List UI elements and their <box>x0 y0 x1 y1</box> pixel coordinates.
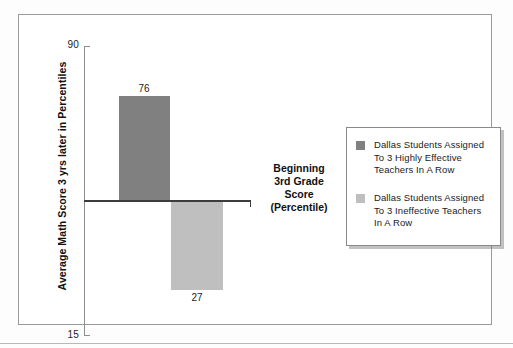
legend-swatch-effective-icon <box>356 141 365 150</box>
legend-label-line-1: Dallas Students Assigned <box>374 139 484 150</box>
baseline-end-tick <box>250 200 251 207</box>
center-annotation-line-2: 3rd Grade <box>255 175 343 188</box>
legend-label-ineffective: Dallas Students Assigned To 3 Ineffectiv… <box>374 192 484 230</box>
bar-value-label-negative: 27 <box>171 292 223 303</box>
bar-ineffective <box>171 202 223 290</box>
legend-item-ineffective: Dallas Students Assigned To 3 Ineffectiv… <box>356 192 498 230</box>
chart-frame: 90 15 Average Math Score 3 yrs later in … <box>18 14 492 325</box>
center-annotation-line-1: Beginning <box>255 162 343 175</box>
legend-label-line-2: To 3 Highly Effective <box>374 152 462 163</box>
center-annotation-line-3: Score <box>255 188 343 201</box>
page-background: 90 15 Average Math Score 3 yrs later in … <box>0 0 513 348</box>
center-annotation: Beginning 3rd Grade Score (Percentile) <box>255 162 343 214</box>
y-axis-tick-bottom <box>84 335 90 336</box>
bar-value-label-positive: 76 <box>118 83 170 94</box>
zero-baseline <box>84 200 251 202</box>
legend-label-line-3: Teachers In A Row <box>374 164 454 175</box>
y-axis-tick-label-bottom: 15 <box>53 329 79 340</box>
legend-item-highly-effective: Dallas Students Assigned To 3 Highly Eff… <box>356 139 498 177</box>
center-annotation-line-4: (Percentile) <box>255 201 343 214</box>
bar-highly-effective <box>119 96 170 200</box>
legend-label-line-1: Dallas Students Assigned <box>374 192 484 203</box>
page-horizontal-rule <box>0 343 513 344</box>
y-axis-line <box>84 46 85 336</box>
chart-legend: Dallas Students Assigned To 3 Highly Eff… <box>346 127 501 246</box>
y-axis-title: Average Math Score 3 yrs later in Percen… <box>56 41 68 311</box>
y-axis-tick-top <box>84 46 90 47</box>
legend-label-line-3: In A Row <box>374 217 412 228</box>
legend-label-highly-effective: Dallas Students Assigned To 3 Highly Eff… <box>374 139 484 177</box>
legend-label-line-2: To 3 Ineffective Teachers <box>374 205 481 216</box>
legend-swatch-ineffective-icon <box>356 194 365 203</box>
